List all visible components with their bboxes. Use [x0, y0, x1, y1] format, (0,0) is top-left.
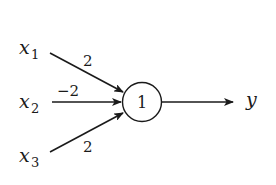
input-x1: x 1 — [19, 36, 39, 62]
neuron-threshold: 1 — [137, 93, 147, 112]
weight-x1: 2 — [83, 52, 93, 70]
weight-x3: 2 — [83, 138, 93, 156]
output-y: y — [245, 88, 257, 110]
input-x1-var: x — [19, 36, 30, 58]
input-x3: x 3 — [19, 144, 39, 170]
input-x1-subscript: 1 — [31, 47, 39, 62]
weight-x2: −2 — [57, 82, 79, 100]
input-x2: x 2 — [19, 90, 39, 116]
input-x3-subscript: 3 — [31, 155, 39, 170]
input-x2-subscript: 2 — [31, 101, 39, 116]
input-x2-var: x — [19, 90, 30, 112]
input-x3-var: x — [19, 144, 30, 166]
neural-unit-diagram: x 1 2 x 2 −2 x 3 2 1 y — [0, 0, 276, 185]
